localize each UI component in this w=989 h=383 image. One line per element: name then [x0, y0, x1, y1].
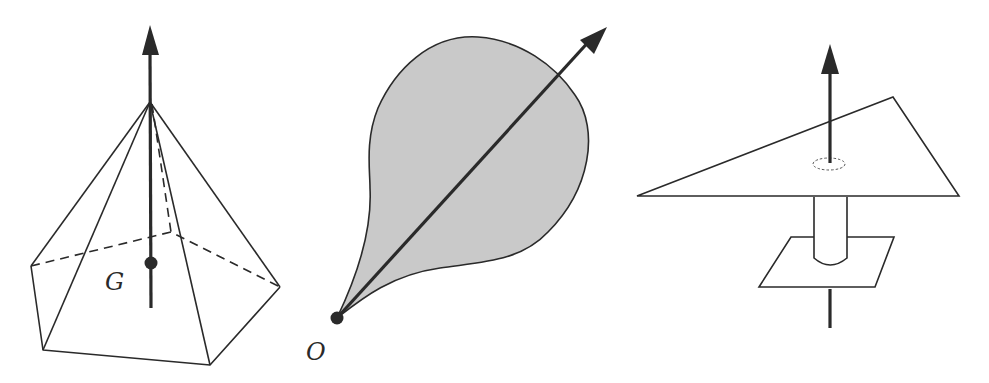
origin-point [331, 312, 344, 325]
pyramid-axis-line [150, 52, 151, 308]
arrowhead-icon [580, 27, 607, 54]
point-label-o: O [306, 338, 326, 366]
arrowhead-icon [821, 44, 839, 74]
point-label-g: G [105, 268, 124, 296]
pyramid-base-edges [31, 266, 280, 365]
pyramid-lateral-edge [150, 102, 210, 365]
triangle-plate [637, 97, 959, 196]
centroid-point [145, 257, 158, 270]
plane-axis-panel [637, 44, 959, 328]
pyramid-panel: G [31, 25, 280, 365]
drop-lamina-panel: O [306, 27, 607, 366]
pyramid-lateral-edge [150, 102, 280, 287]
arrowhead-icon [142, 25, 159, 55]
cylinder [814, 197, 847, 265]
figure-canvas: G O [0, 0, 989, 383]
